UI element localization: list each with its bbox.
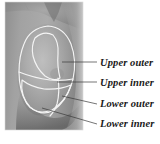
label-upper-outer: Upper outer xyxy=(100,57,154,68)
label-upper-inner: Upper inner xyxy=(100,77,155,88)
label-lower-inner: Lower inner xyxy=(99,118,155,129)
figure-container: Upper outer Upper inner Lower outer Lowe… xyxy=(0,0,160,144)
label-lower-outer: Lower outer xyxy=(99,98,155,109)
breast-profile-photo xyxy=(5,2,83,130)
photo-grain xyxy=(5,2,83,130)
breast-quadrants-figure: Upper outer Upper inner Lower outer Lowe… xyxy=(0,0,160,144)
